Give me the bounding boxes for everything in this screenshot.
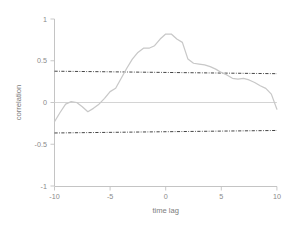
upper-confidence-band — [55, 71, 277, 74]
chart-plot-area: 1 0.5 0 -0.5 -1 -10 -5 0 5 10 time lag c… — [0, 0, 297, 229]
correlation-series-line — [55, 34, 277, 122]
x-tick-label-group: -10 -5 0 5 10 — [49, 192, 281, 201]
y-tick-label-group: 1 0.5 0 -0.5 -1 — [35, 15, 47, 191]
lower-confidence-band — [55, 130, 277, 133]
y-axis-title: correlation — [14, 85, 23, 120]
y-tick-group — [51, 19, 55, 186]
y-tick-label: -1 — [41, 182, 47, 191]
x-tick-label: -5 — [107, 192, 113, 201]
y-tick-label: 1 — [43, 15, 47, 24]
x-tick-group — [55, 187, 277, 191]
y-tick-label: 0 — [43, 98, 47, 107]
x-axis-title: time lag — [152, 206, 179, 215]
x-tick-label: 0 — [164, 192, 168, 201]
correlation-chart: 1 0.5 0 -0.5 -1 -10 -5 0 5 10 time lag c… — [0, 0, 297, 229]
x-tick-label: -10 — [49, 192, 59, 201]
x-tick-label: 5 — [219, 192, 223, 201]
y-tick-label: -0.5 — [35, 140, 47, 149]
x-tick-label: 10 — [273, 192, 281, 201]
y-tick-label: 0.5 — [37, 56, 47, 65]
